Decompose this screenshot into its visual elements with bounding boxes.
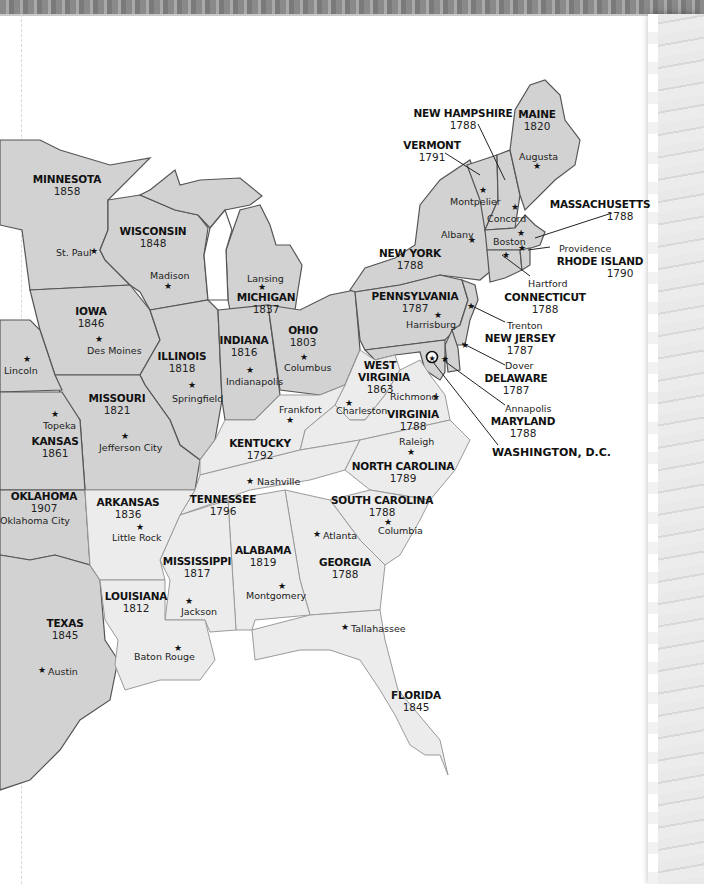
label-ohio: OHIO1803	[288, 324, 318, 348]
star-icon: ★	[246, 366, 254, 375]
label-oklahoma: OKLAHOMA1907	[11, 490, 78, 514]
capital-st-paul: St. Paul	[56, 247, 92, 258]
label-missouri: MISSOURI1821	[89, 392, 146, 416]
capital-oklahoma-city: Oklahoma City	[0, 515, 70, 526]
label-massachusetts: MASSACHUSETTS1788	[550, 198, 651, 222]
label-new-hampshire: NEW HAMPSHIRE1788	[413, 107, 512, 131]
label-delaware: DELAWARE1787	[484, 372, 547, 396]
capital-columbia: Columbia	[378, 525, 423, 536]
star-icon: ★	[511, 203, 519, 212]
label-south-carolina: SOUTH CAROLINA1788	[331, 494, 433, 518]
label-virginia: VIRGINIA1788	[387, 408, 439, 432]
capital-raleigh: Raleigh	[399, 436, 434, 447]
label-connecticut: CONNECTICUT1788	[504, 291, 585, 315]
label-west-virginia: WEST VIRGINIA1863	[358, 359, 402, 395]
star-icon: ★	[441, 355, 449, 364]
label-north-carolina: NORTH CAROLINA1789	[352, 460, 455, 484]
star-icon: ★	[51, 410, 59, 419]
washington-dc-icon: ★	[427, 352, 438, 363]
label-tennessee: TENNESSEE1796	[190, 493, 256, 517]
label-new-york: NEW YORK1788	[379, 247, 441, 271]
capital-baton-rouge: Baton Rouge	[134, 651, 195, 662]
star-icon: ★	[246, 477, 254, 486]
star-icon: ★	[185, 597, 193, 606]
capital-concord: Concord	[487, 213, 526, 224]
capital-jackson: Jackson	[181, 606, 217, 617]
state-shape-maine	[510, 80, 580, 210]
capital-harrisburg: Harrisburg	[406, 319, 456, 330]
star-icon: ★	[502, 251, 510, 260]
label-florida: FLORIDA1845	[391, 689, 441, 713]
capital-hartford: Hartford	[528, 278, 568, 289]
star-icon: ★	[300, 353, 308, 362]
star-icon: ★	[121, 432, 129, 441]
capital-augusta: Augusta	[519, 151, 558, 162]
capital-tallahassee: Tallahassee	[351, 623, 406, 634]
capital-springfield: Springfield	[172, 393, 223, 404]
capital-austin: Austin	[48, 666, 78, 677]
capital-dover: Dover	[505, 360, 534, 371]
star-icon: ★	[461, 341, 469, 350]
star-icon: ★	[467, 302, 475, 311]
capital-frankfort: Frankfort	[279, 404, 322, 415]
label-maine: MAINE1820	[518, 108, 555, 132]
star-icon: ★	[286, 416, 294, 425]
capital-jefferson-city: Jefferson City	[99, 442, 162, 453]
capital-des-moines: Des Moines	[87, 345, 142, 356]
capital-lansing: Lansing	[247, 273, 284, 284]
star-icon: ★	[313, 530, 321, 539]
capital-madison: Madison	[150, 270, 189, 281]
capital-atlanta: Atlanta	[323, 530, 357, 541]
capital-lincoln: Lincoln	[4, 365, 38, 376]
label-louisiana: LOUISIANA1812	[105, 590, 167, 614]
capital-montpelier: Montpelier	[450, 196, 501, 207]
label-mississippi: MISSISSIPPI1817	[163, 555, 232, 579]
state-shape-new-york	[350, 160, 492, 292]
star-icon: ★	[341, 623, 349, 632]
capital-albany: Albany	[441, 229, 474, 240]
label-texas: TEXAS1845	[46, 617, 83, 641]
paper-edge-decoration	[654, 14, 704, 884]
label-kentucky: KENTUCKY1792	[229, 437, 291, 461]
capital-trenton: Trenton	[507, 320, 543, 331]
label-vermont: VERMONT1791	[403, 139, 460, 163]
label-iowa: IOWA1846	[75, 305, 106, 329]
star-icon: ★	[95, 335, 103, 344]
label-wisconsin: WISCONSIN1848	[120, 225, 187, 249]
star-icon: ★	[518, 244, 526, 253]
label-georgia: GEORGIA1788	[319, 556, 371, 580]
capital-providence: Providence	[559, 243, 611, 254]
star-icon: ★	[258, 283, 266, 292]
star-icon: ★	[23, 355, 31, 364]
label-new-jersey: NEW JERSEY1787	[485, 332, 556, 356]
capital-little-rock: Little Rock	[112, 532, 162, 543]
star-icon: ★	[533, 162, 541, 171]
capital-indianapolis: Indianapolis	[226, 376, 283, 387]
star-icon: ★	[136, 523, 144, 532]
label-rhode-island: RHODE ISLAND1790	[557, 255, 644, 279]
label-indiana: INDIANA1816	[220, 334, 269, 358]
label-maryland: MARYLAND1788	[491, 415, 555, 439]
label-illinois: ILLINOIS1818	[158, 350, 207, 374]
svg-text:★: ★	[428, 354, 435, 363]
label-kansas: KANSAS1861	[31, 435, 78, 459]
star-icon: ★	[38, 666, 46, 675]
capital-annapolis: Annapolis	[505, 403, 551, 414]
star-icon: ★	[407, 448, 415, 457]
capital-montgomery: Montgomery	[246, 590, 306, 601]
capital-nashville: Nashville	[257, 476, 300, 487]
capital-charleston: Charleston	[336, 405, 387, 416]
star-icon: ★	[188, 381, 196, 390]
label-arkansas: ARKANSAS1836	[97, 496, 160, 520]
label-washington-dc: WASHINGTON, D.C.	[492, 446, 611, 459]
label-pennsylvania: PENNSYLVANIA1787	[372, 290, 459, 314]
star-icon: ★	[479, 186, 487, 195]
capital-topeka: Topeka	[43, 420, 76, 431]
label-alabama: ALABAMA1819	[235, 544, 291, 568]
capital-richmond: Richmond	[390, 391, 438, 402]
star-icon: ★	[164, 282, 172, 291]
label-michigan: MICHIGAN1837	[237, 291, 296, 315]
label-minnesota: MINNESOTA1858	[33, 173, 101, 197]
capital-columbus: Columbus	[284, 362, 331, 373]
